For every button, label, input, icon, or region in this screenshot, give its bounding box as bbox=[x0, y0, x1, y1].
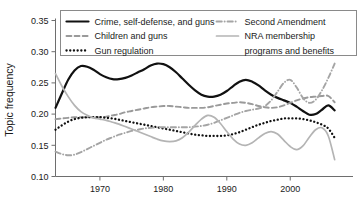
chart-container: Topic frequency 0.100.150.200.250.300.35… bbox=[0, 0, 364, 210]
y-axis: 0.100.150.200.250.300.35 bbox=[31, 16, 56, 182]
series-line-1 bbox=[56, 96, 335, 120]
y-tick-label: 0.15 bbox=[31, 141, 49, 151]
chart-legend: Crime, self-defense, and gunsChildren an… bbox=[61, 11, 357, 56]
y-tick-label: 0.20 bbox=[31, 109, 49, 119]
y-axis-title: Topic frequency bbox=[3, 62, 15, 136]
x-tick-label: 2000 bbox=[280, 184, 300, 194]
legend-label-3: Second Amendment bbox=[245, 17, 327, 27]
topic-frequency-line-chart: Topic frequency 0.100.150.200.250.300.35… bbox=[0, 0, 364, 210]
y-tick-label: 0.25 bbox=[31, 78, 49, 88]
series-lines bbox=[56, 63, 335, 159]
legend-label-0: Crime, self-defense, and guns bbox=[95, 17, 216, 27]
x-tick-label: 1970 bbox=[90, 184, 110, 194]
x-tick-label: 1990 bbox=[217, 184, 237, 194]
legend-label-2: Gun regulation bbox=[95, 46, 154, 56]
y-tick-label: 0.35 bbox=[31, 16, 49, 26]
series-line-3 bbox=[56, 64, 335, 156]
legend-label-5: programs and benefits bbox=[245, 46, 335, 56]
y-tick-label: 0.30 bbox=[31, 47, 49, 57]
y-tick-label: 0.10 bbox=[31, 172, 49, 182]
x-axis: 1970198019902000 bbox=[56, 177, 354, 194]
x-tick-label: 1980 bbox=[153, 184, 173, 194]
legend-label-1: Children and guns bbox=[95, 31, 169, 41]
y-axis-title-group: Topic frequency bbox=[3, 62, 15, 136]
legend-label-4: NRA membership bbox=[245, 31, 316, 41]
